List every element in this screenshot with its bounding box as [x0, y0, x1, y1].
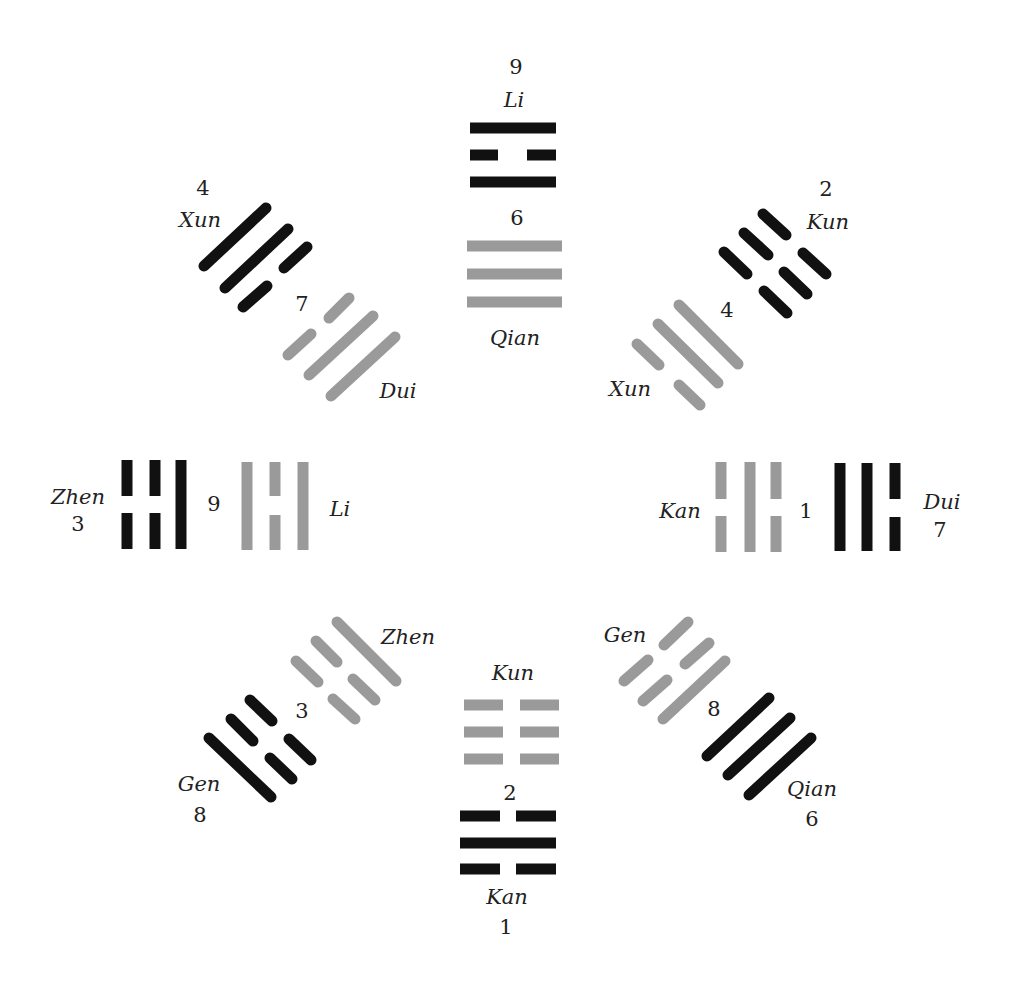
right-inner-number: 1: [799, 501, 812, 522]
top-left-outer-number: 4: [196, 178, 209, 199]
bottom-left-outer-number: 8: [193, 805, 206, 826]
bottom-inner-name: Kun: [492, 663, 534, 684]
top-outer-number: 9: [509, 57, 522, 78]
top-left-outer-name: Xun: [179, 210, 221, 231]
bottom-outer-name: Kan: [486, 887, 528, 908]
trigram-right-outer-dui: [840, 463, 895, 551]
left-inner-number: 9: [207, 494, 220, 515]
trigram-top-inner-qian: [467, 246, 562, 302]
left-inner-name: Li: [330, 499, 351, 520]
bottom-left-inner-number: 3: [295, 701, 308, 722]
bottom-left-outer-name: Gen: [178, 774, 221, 795]
right-inner-name: Kan: [659, 501, 701, 522]
trigram-diagram: [0, 0, 1012, 981]
bottom-right-inner-number: 8: [707, 699, 720, 720]
trigram-left-inner-li: [247, 462, 303, 550]
top-inner-number: 6: [510, 208, 523, 229]
bottom-right-inner-name: Gen: [604, 625, 647, 646]
bottom-left-inner-name: Zhen: [381, 627, 435, 648]
top-left-inner-number: 7: [295, 294, 308, 315]
right-outer-name: Dui: [923, 492, 960, 513]
top-right-outer-name: Kun: [807, 212, 849, 233]
bottom-right-outer-name: Qian: [787, 779, 837, 800]
right-outer-number: 7: [933, 520, 946, 541]
left-outer-name: Zhen: [51, 487, 105, 508]
top-left-inner-name: Dui: [379, 381, 416, 402]
trigram-left-outer-zhen: [127, 460, 181, 549]
trigram-bottom-outer-kan: [460, 816, 556, 869]
top-right-inner-number: 4: [720, 300, 733, 321]
bottom-outer-number: 1: [499, 917, 512, 938]
top-outer-name: Li: [504, 90, 525, 111]
left-outer-number: 3: [71, 514, 84, 535]
top-right-inner-name: Xun: [609, 379, 651, 400]
top-right-outer-number: 2: [819, 179, 832, 200]
bottom-inner-number: 2: [503, 783, 516, 804]
top-inner-name: Qian: [490, 328, 540, 349]
trigram-bottom-inner-kun: [464, 705, 559, 759]
trigram-top-outer-li: [470, 128, 556, 182]
bottom-right-outer-number: 6: [805, 809, 818, 830]
trigram-right-inner-kan: [721, 462, 776, 552]
